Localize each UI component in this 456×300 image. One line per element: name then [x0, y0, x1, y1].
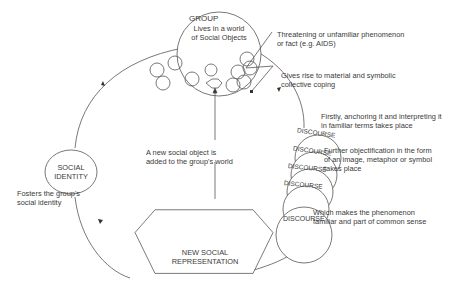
representation-line-1: NEW SOCIAL: [160, 248, 250, 257]
fosters-line-1: Fosters the group's: [17, 189, 80, 198]
threat-line-2: or fact (e.g. AIDS): [277, 39, 336, 48]
discourse-label-5: DISCOURSE: [283, 214, 325, 223]
group-title: GROUP: [189, 14, 218, 23]
new-object-line-1: A new social object is: [146, 148, 216, 157]
objectification-line-3: takes place: [324, 164, 361, 173]
cycle-arc-top-left: [75, 48, 183, 148]
social-identity-line-1: SOCIAL: [46, 163, 96, 172]
objectification-line-1: Further objectification in the form: [324, 146, 432, 155]
common-sense-line-1: Which makes the phenomenon: [313, 208, 415, 217]
cycle-arc-top-right: [256, 51, 304, 128]
fosters-line-2: social identity: [17, 198, 61, 207]
anchoring-line-2: in familiar terms takes place: [321, 121, 413, 130]
coping-line-1: Gives rise to material and symbolic: [281, 71, 396, 80]
threat-line-1: Threatening or unfamiliar phenomenon: [277, 30, 404, 39]
group-subtitle-1: Lives in a world: [176, 24, 262, 33]
new-object-line-2: added to the group's world: [146, 157, 233, 166]
objectification-line-2: of an image, metaphor or symbol: [324, 155, 432, 164]
anchoring-line-1: Firstly, anchoring it and interpreting i…: [321, 112, 442, 121]
common-sense-line-2: familiar and part of common sense: [313, 217, 426, 226]
coping-line-2: collective coping: [281, 80, 335, 89]
cycle-arc-bottom-left: [75, 197, 130, 278]
social-identity-line-2: IDENTITY: [46, 172, 96, 181]
group-subtitle-2: of Social Objects: [176, 33, 262, 42]
representation-line-2: REPRESENTATION: [160, 257, 250, 266]
